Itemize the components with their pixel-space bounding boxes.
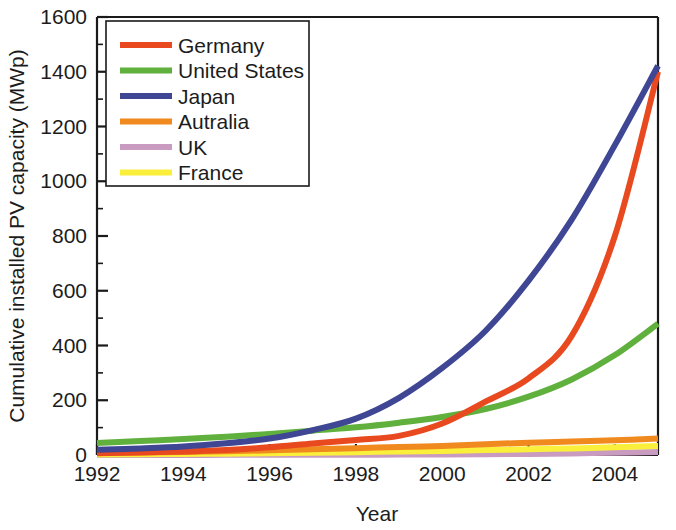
legend-label: Japan bbox=[178, 85, 235, 108]
legend-label: UK bbox=[178, 136, 207, 159]
y-tick-label: 1000 bbox=[40, 169, 87, 192]
y-axis-title: Cumulative installed PV capacity (MWp) bbox=[5, 49, 28, 422]
x-tick-label: 2002 bbox=[505, 462, 552, 485]
legend: GermanyUnited StatesJapanAutraliaUKFranc… bbox=[106, 21, 309, 186]
y-tick-label: 600 bbox=[52, 279, 87, 302]
x-axis-title: Year bbox=[356, 502, 398, 525]
x-tick-label: 1994 bbox=[160, 462, 207, 485]
legend-label: Germany bbox=[178, 34, 265, 57]
y-tick-label: 800 bbox=[52, 224, 87, 247]
series-line-united-states bbox=[97, 324, 658, 443]
legend-label: United States bbox=[178, 59, 304, 82]
legend-label: France bbox=[178, 161, 243, 184]
y-tick-label: 1400 bbox=[40, 60, 87, 83]
legend-label: Autralia bbox=[178, 110, 250, 133]
pv-capacity-line-chart: 02004006008001000120014001600 1992199419… bbox=[0, 0, 676, 530]
x-tick-label: 1998 bbox=[333, 462, 380, 485]
y-tick-label: 200 bbox=[52, 388, 87, 411]
y-tick-label: 1600 bbox=[40, 5, 87, 28]
x-tick-label: 1992 bbox=[74, 462, 121, 485]
x-axis-tick-labels: 1992199419961998200020022004 bbox=[74, 462, 639, 485]
y-axis-tick-labels: 02004006008001000120014001600 bbox=[40, 5, 87, 466]
y-tick-label: 1200 bbox=[40, 115, 87, 138]
chart-figure: 02004006008001000120014001600 1992199419… bbox=[0, 0, 676, 530]
x-tick-label: 1996 bbox=[246, 462, 293, 485]
x-tick-label: 2004 bbox=[591, 462, 638, 485]
y-tick-label: 400 bbox=[52, 334, 87, 357]
x-tick-label: 2000 bbox=[419, 462, 466, 485]
